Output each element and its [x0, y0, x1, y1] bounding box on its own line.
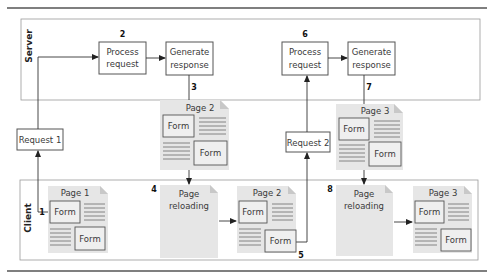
step-number-7: 7 [366, 83, 372, 92]
server-zone [21, 19, 480, 100]
client-page3-document: Page 3 Form Form [413, 186, 472, 253]
svg-text:Page 1: Page 1 [61, 188, 90, 198]
form-field: Form [374, 149, 395, 159]
client-page2-document: Page 2 Form Form [237, 186, 296, 253]
client-reload-1-document: Page reloading [160, 185, 218, 258]
form-field: Form [419, 207, 440, 217]
server-page2-document: Page 2 Form Form [160, 100, 229, 170]
svg-text:Generate: Generate [170, 47, 210, 57]
form-field: Form [54, 207, 75, 217]
form-field: Form [242, 207, 263, 217]
process-request-1-box: Process request [99, 42, 146, 74]
svg-text:Process: Process [106, 47, 139, 57]
svg-text:Page: Page [354, 189, 375, 199]
step-number-3: 3 [191, 83, 197, 92]
form-field: Form [79, 234, 100, 244]
svg-text:Page 3: Page 3 [429, 188, 458, 198]
client-page1-document: Page 1 Form Form [48, 186, 108, 253]
svg-text:Request 2: Request 2 [287, 138, 330, 148]
step-number-4: 4 [151, 185, 157, 194]
form-field: Form [270, 236, 291, 246]
form-field: Form [343, 124, 364, 134]
svg-text:reloading: reloading [169, 201, 209, 211]
process-request-2-box: Process request [282, 42, 328, 75]
request-2-box: Request 2 [286, 132, 330, 152]
generate-response-2-box: Generate response [348, 42, 395, 75]
form-field: Form [168, 121, 189, 131]
client-reload-2-document: Page reloading [336, 185, 393, 256]
step-number-5: 5 [298, 251, 304, 260]
step-number-1: 1 [39, 208, 45, 217]
form-field: Form [445, 235, 466, 245]
svg-text:Page 2: Page 2 [186, 103, 215, 113]
svg-text:Generate: Generate [352, 47, 392, 57]
svg-text:Process: Process [289, 47, 322, 57]
form-field: Form [200, 148, 221, 158]
svg-text:request: request [106, 59, 139, 69]
postback-flow-diagram: Server Client Process request Generate r… [0, 0, 494, 276]
svg-text:Page 2: Page 2 [253, 188, 282, 198]
step-number-6: 6 [302, 30, 308, 39]
request-1-box: Request 1 [17, 129, 63, 150]
svg-text:Request 1: Request 1 [19, 135, 62, 145]
svg-text:response: response [170, 60, 209, 70]
client-zone-label: Client [23, 203, 33, 233]
generate-response-1-box: Generate response [166, 42, 213, 75]
svg-text:Page: Page [179, 189, 200, 199]
server-page3-document: Page 3 Form Form [336, 104, 403, 170]
svg-text:reloading: reloading [344, 201, 384, 211]
step-number-8: 8 [327, 185, 333, 194]
svg-text:response: response [352, 60, 391, 70]
server-zone-label: Server [24, 29, 34, 63]
svg-text:Page 3: Page 3 [361, 106, 390, 116]
step-number-2: 2 [120, 30, 126, 39]
svg-text:request: request [289, 60, 322, 70]
